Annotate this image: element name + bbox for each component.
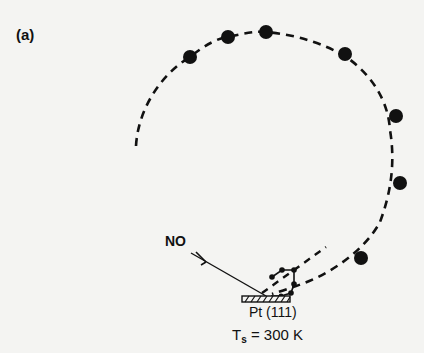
dashed-trajectory-arc bbox=[136, 32, 392, 294]
panel-label: (a) bbox=[16, 26, 34, 43]
trajectory-dot bbox=[393, 176, 407, 190]
temperature-subscript: s bbox=[241, 334, 247, 345]
trajectory-dot bbox=[183, 50, 197, 64]
trajectory-dot bbox=[338, 47, 352, 61]
trajectory-dot bbox=[259, 25, 273, 39]
temperature-relation: = bbox=[251, 326, 260, 343]
trajectory-dot bbox=[389, 109, 403, 123]
surface-label: Pt (111) bbox=[249, 304, 297, 320]
incident-arrow bbox=[191, 252, 266, 296]
incident-molecule-label: NO bbox=[165, 233, 186, 249]
surface-slab bbox=[242, 296, 290, 302]
temperature-value: 300 K bbox=[264, 326, 303, 343]
temperature-label: Ts = 300 K bbox=[232, 326, 303, 345]
trajectory-dots bbox=[183, 25, 407, 265]
diagram-canvas bbox=[0, 0, 424, 353]
trajectory-dot bbox=[221, 30, 235, 44]
trajectory-dot bbox=[354, 251, 368, 265]
temperature-symbol: T bbox=[232, 326, 241, 343]
